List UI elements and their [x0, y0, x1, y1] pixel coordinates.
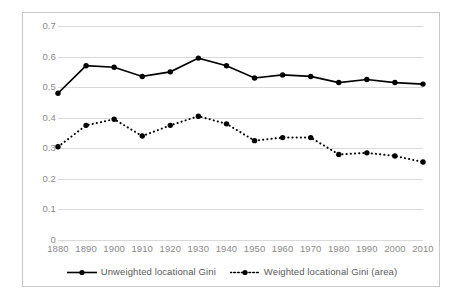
data-point — [168, 69, 173, 74]
data-point — [224, 63, 229, 68]
data-point — [168, 123, 173, 128]
data-point — [252, 75, 257, 80]
legend-label-weighted: Weighted locational Gini (area) — [264, 267, 397, 277]
data-point — [196, 113, 201, 118]
data-point — [364, 77, 369, 82]
data-point — [280, 72, 285, 77]
data-point — [224, 121, 229, 126]
series-line-0 — [58, 58, 423, 93]
legend-swatch-dotted-line-icon — [230, 268, 260, 277]
data-point — [196, 55, 201, 60]
data-point — [111, 65, 116, 70]
legend-item-weighted[interactable]: Weighted locational Gini (area) — [230, 267, 397, 277]
data-point — [55, 144, 60, 149]
x-axis: 1880189019001910192019301940195019601970… — [58, 244, 423, 258]
data-point — [336, 80, 341, 85]
data-point — [308, 74, 313, 79]
legend-swatch-solid-line-icon — [67, 268, 97, 277]
data-point — [308, 135, 313, 140]
data-point — [111, 117, 116, 122]
data-point — [83, 63, 88, 68]
chart-legend: Unweighted locational Gini Weighted loca… — [23, 262, 441, 282]
legend-item-unweighted[interactable]: Unweighted locational Gini — [67, 267, 216, 277]
data-point — [364, 150, 369, 155]
data-point — [252, 138, 257, 143]
x-axis-tick-label: 2010 — [403, 244, 443, 254]
data-point — [83, 123, 88, 128]
data-point — [420, 159, 425, 164]
chart-container: 00.10.20.30.40.50.60.7 18801890190019101… — [22, 12, 440, 287]
data-point — [392, 153, 397, 158]
legend-label-unweighted: Unweighted locational Gini — [101, 267, 216, 277]
data-point — [140, 74, 145, 79]
data-point — [392, 80, 397, 85]
data-point — [280, 135, 285, 140]
data-point — [140, 133, 145, 138]
data-point — [420, 81, 425, 86]
data-point — [336, 152, 341, 157]
data-point — [55, 91, 60, 96]
